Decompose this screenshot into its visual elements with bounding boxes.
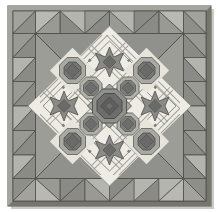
quilt-image-canvas xyxy=(0,0,219,212)
quilt-artwork xyxy=(0,0,219,212)
